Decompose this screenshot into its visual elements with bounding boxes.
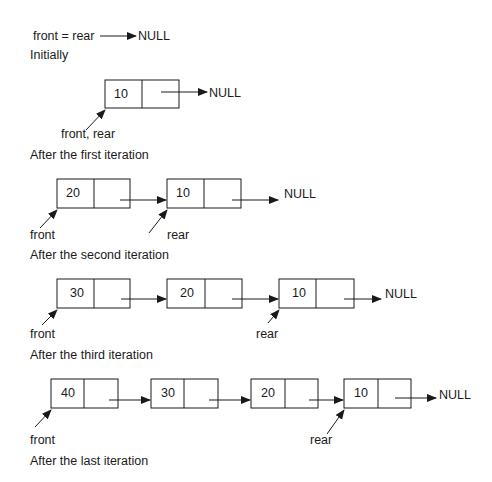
node-value: 40: [61, 386, 75, 400]
pointer-arrow-front: [40, 210, 57, 228]
null-label: NULL: [209, 86, 241, 100]
node-box: [279, 279, 354, 308]
null-label: NULL: [284, 187, 316, 201]
pointer-label-front-rear: front, rear: [61, 127, 115, 141]
node-value: 10: [354, 386, 368, 400]
node-value: 10: [292, 286, 306, 300]
rear-label: rear: [167, 228, 189, 242]
node-value: 30: [70, 286, 84, 300]
node-value: 10: [176, 186, 190, 200]
front-label: front: [30, 228, 55, 242]
null-label: NULL: [439, 388, 471, 402]
rear-label: rear: [256, 327, 278, 341]
caption-third-iteration: After the third iteration: [30, 348, 153, 362]
caption-initially: Initially: [30, 48, 68, 62]
node-value: 20: [261, 386, 275, 400]
front-label: front: [30, 327, 55, 341]
node-value: 30: [161, 386, 175, 400]
node-value: 10: [114, 87, 128, 101]
pointer-arrow-rear: [268, 310, 279, 323]
node-value: 20: [66, 186, 80, 200]
diagram-canvas: [0, 0, 492, 482]
node-box: [57, 279, 130, 308]
pointer-arrow-rear: [149, 210, 167, 233]
null-label: NULL: [138, 29, 170, 43]
pointer-arrow-rear: [327, 410, 344, 434]
pointer-text-front-equals-rear: front = rear: [33, 29, 95, 43]
pointer-arrow-front: [42, 310, 57, 325]
null-label: NULL: [385, 287, 417, 301]
node-box: [167, 279, 242, 308]
front-label: front: [30, 433, 55, 447]
rear-label: rear: [310, 433, 332, 447]
pointer-arrow-front: [35, 410, 51, 427]
node-value: 20: [180, 286, 194, 300]
caption-first-iteration: After the first iteration: [30, 148, 149, 162]
caption-second-iteration: After the second iteration: [30, 248, 169, 262]
caption-last-iteration: After the last iteration: [30, 454, 148, 468]
